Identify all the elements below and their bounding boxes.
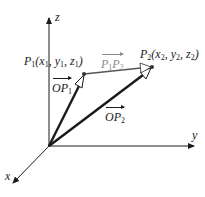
diagram-canvas [0, 0, 205, 197]
z-axis-label: z [55, 11, 60, 23]
vector-arrow-bar-icon [106, 107, 124, 108]
point-p2-dot [150, 65, 154, 69]
point-p1-label: P1(x1, y1, z1) [24, 55, 83, 69]
vector-op1-label: OP1 [52, 82, 72, 96]
point-p1-dot [82, 72, 86, 76]
vector-arrow-bar-icon [53, 78, 71, 79]
x-axis [13, 146, 49, 183]
vector-diagram: z y x P1(x1, y1, z1) P2(x2, y2, z2) P1P2… [0, 0, 205, 197]
vector-op1-arrowhead-icon [75, 75, 84, 88]
vector-p1p2-label: P1P2 [101, 58, 124, 72]
y-axis-label: y [192, 129, 197, 141]
point-p2-label: P2(x2, y2, z2) [140, 48, 199, 62]
vector-op2-label: OP2 [105, 111, 125, 125]
x-axis-label: x [5, 170, 10, 182]
vector-arrow-bar-icon [102, 54, 123, 55]
